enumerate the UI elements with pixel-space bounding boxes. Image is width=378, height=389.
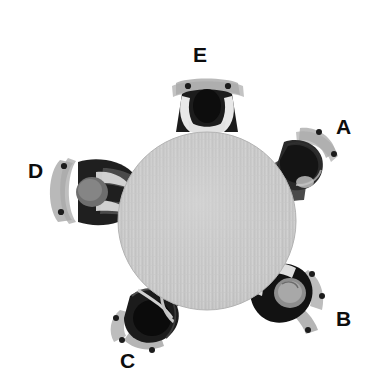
person-b-face [278, 281, 302, 303]
chair-stud [309, 271, 315, 277]
person-d-face [78, 179, 102, 201]
chair-stud [331, 151, 337, 157]
chair-stud [113, 315, 119, 321]
chair-stud [305, 327, 311, 333]
seat-label-c: C [120, 350, 135, 371]
chair-stud [319, 293, 325, 299]
seat-label-d: D [28, 160, 43, 181]
person-c-head [133, 300, 171, 336]
chair-stud [225, 83, 231, 89]
person-d-chair [50, 158, 76, 224]
seat-label-a: A [336, 116, 351, 137]
seat-label-e: E [193, 44, 207, 65]
seat-label-b: B [336, 308, 351, 329]
table-shading [118, 132, 296, 310]
chair-stud [185, 83, 191, 89]
chair-stud [316, 129, 322, 135]
chair-stud [119, 337, 125, 343]
person-a-shoulder-hl [296, 176, 314, 188]
person-e[interactable] [172, 79, 244, 135]
chair-stud [149, 347, 155, 353]
round-table[interactable] [118, 132, 296, 310]
person-e-head [193, 89, 221, 123]
chair-stud [58, 209, 64, 215]
chair-stud [61, 163, 67, 169]
seating-diagram-scene: A B C D E [0, 0, 378, 389]
diagram-canvas [0, 0, 378, 389]
